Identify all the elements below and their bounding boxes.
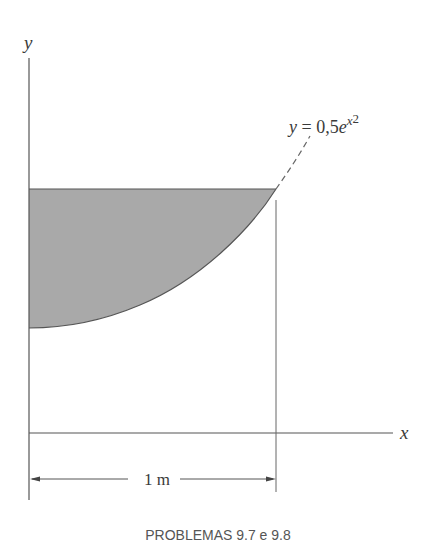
arrow-right-icon xyxy=(266,477,276,482)
figure-caption: PROBLEMAS 9.7 e 9.8 xyxy=(145,527,291,543)
curve-equation: y = 0,5ex2 xyxy=(287,111,359,137)
y-axis-label: y xyxy=(22,32,33,53)
arrow-left-icon xyxy=(30,477,40,482)
curve-dashed-extension xyxy=(276,136,310,189)
diagram-canvas: y x y = 0,5ex2 1 m PROBLEMAS 9.7 e 9.8 xyxy=(0,0,436,556)
shaded-region xyxy=(29,189,276,328)
x-axis-label: x xyxy=(399,422,409,443)
dimension-label: 1 m xyxy=(144,470,170,489)
